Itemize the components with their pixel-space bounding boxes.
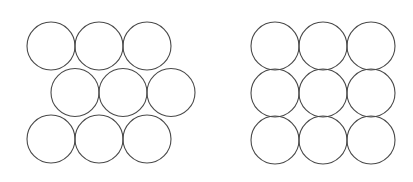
diagram-background <box>0 0 413 182</box>
circle-packing-diagram <box>0 0 413 182</box>
